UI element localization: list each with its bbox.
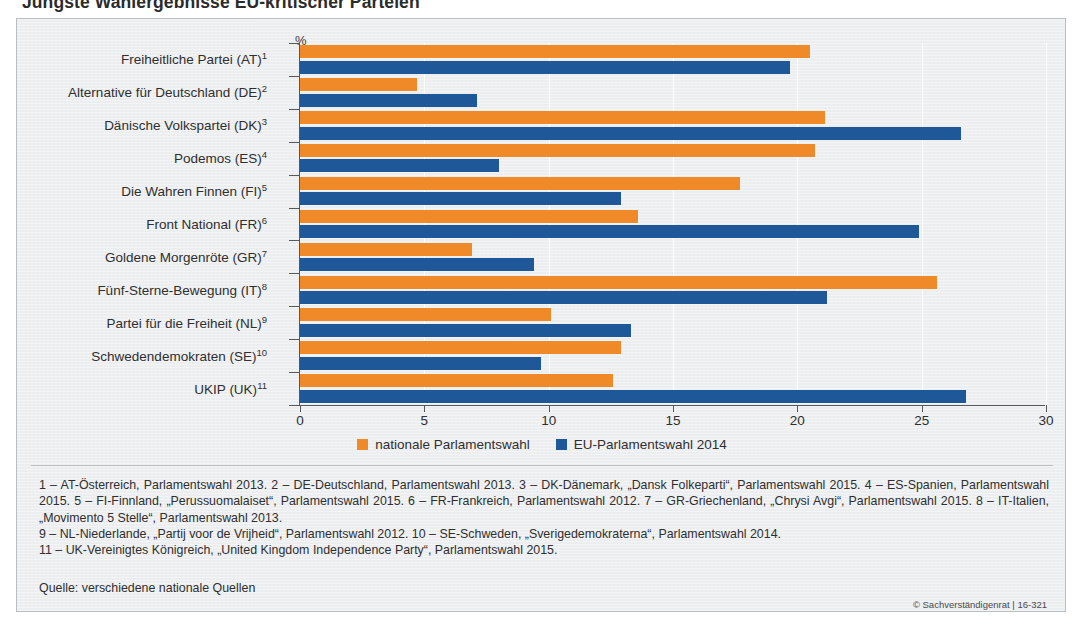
bar: [300, 94, 477, 107]
y-axis-tick: [289, 109, 300, 110]
category-label: Alternative für Deutschland (DE)2: [68, 86, 267, 100]
copyright-note: © Sachverständigenrat | 16-321: [913, 599, 1047, 610]
y-axis-tick: [289, 240, 300, 241]
x-axis-tick: [424, 405, 425, 412]
category-label: Goldene Morgenröte (GR)7: [105, 251, 267, 265]
chart-legend: nationale ParlamentswahlEU-Parlamentswah…: [17, 437, 1067, 452]
y-axis-tick: [289, 372, 300, 373]
bar-series-container: [300, 43, 1046, 405]
gridline: [1046, 43, 1047, 405]
y-axis-tick: [289, 142, 300, 143]
y-axis-tick: [289, 306, 300, 307]
bar: [300, 192, 621, 205]
footnote-marker: 4: [262, 149, 267, 160]
divider: [31, 465, 1053, 466]
x-axis-tick-label: 30: [1038, 413, 1053, 428]
x-axis-tick: [549, 405, 550, 412]
y-axis-tick: [289, 208, 300, 209]
category-label: Freiheitliche Partei (AT)1: [121, 53, 267, 67]
bar: [300, 390, 966, 403]
x-axis-tick-label: 10: [541, 413, 556, 428]
x-axis-tick: [922, 405, 923, 412]
x-axis-tick: [797, 405, 798, 412]
bar: [300, 45, 810, 58]
category-label: Dänische Volkspartei (DK)3: [104, 119, 267, 133]
category-label: Schwedendemokraten (SE)10: [91, 350, 267, 364]
chart-page: Jüngste Wahlergebnisse EU-kritischer Par…: [0, 0, 1084, 630]
footnote-line: 1 – AT-Österreich, Parlamentswahl 2013. …: [39, 477, 1049, 526]
plot-area: % Freiheitliche Partei (AT)1Alternative …: [17, 19, 1067, 451]
bar: [300, 210, 638, 223]
footnote-marker: 11: [257, 379, 267, 390]
bar: [300, 111, 825, 124]
footnote-marker: 10: [256, 346, 267, 357]
bar: [300, 159, 499, 172]
bar: [300, 61, 790, 74]
footnote-marker: 2: [262, 83, 267, 94]
legend-item[interactable]: nationale Parlamentswahl: [357, 437, 530, 452]
x-axis-tick-label: 0: [296, 413, 304, 428]
page-title: Jüngste Wahlergebnisse EU-kritischer Par…: [22, 0, 420, 13]
bar: [300, 276, 937, 289]
y-axis-tick: [289, 76, 300, 77]
category-axis-labels: Freiheitliche Partei (AT)1Alternative fü…: [17, 43, 283, 405]
footnote-marker: 1: [262, 50, 267, 61]
legend-label: nationale Parlamentswahl: [375, 437, 530, 452]
bar: [300, 324, 631, 337]
bar: [300, 177, 740, 190]
footnote-marker: 5: [262, 182, 267, 193]
x-axis-tick: [673, 405, 674, 412]
footnote-marker: 9: [262, 313, 267, 324]
bar: [300, 357, 541, 370]
x-axis-line: [299, 405, 1045, 406]
y-axis-tick: [289, 43, 300, 44]
x-axis-tick-label: 5: [421, 413, 429, 428]
category-label: Podemos (ES)4: [174, 152, 267, 166]
x-axis-tick-label: 15: [665, 413, 680, 428]
category-label: UKIP (UK)11: [194, 383, 267, 397]
y-axis-tick: [289, 273, 300, 274]
x-axis-tick-label: 20: [790, 413, 805, 428]
category-label: Front National (FR)6: [146, 218, 267, 232]
bar: [300, 78, 417, 91]
bar: [300, 308, 551, 321]
footnote-marker: 8: [262, 280, 267, 291]
legend-swatch-icon: [357, 439, 368, 450]
bar: [300, 144, 815, 157]
legend-swatch-icon: [556, 439, 567, 450]
footnote-marker: 6: [262, 215, 267, 226]
footnotes: 1 – AT-Österreich, Parlamentswahl 2013. …: [39, 477, 1049, 558]
x-axis-tick: [300, 405, 301, 412]
footnote-line: 11 – UK-Vereinigtes Königreich, „United …: [39, 542, 1049, 558]
legend-item[interactable]: EU-Parlamentswahl 2014: [556, 437, 727, 452]
bar: [300, 341, 621, 354]
legend-label: EU-Parlamentswahl 2014: [574, 437, 727, 452]
footnote-line: 9 – NL-Niederlande, „Partij voor de Vrij…: [39, 526, 1049, 542]
chart-card: % Freiheitliche Partei (AT)1Alternative …: [16, 18, 1066, 612]
x-axis-tick-label: 25: [914, 413, 929, 428]
bar: [300, 127, 961, 140]
y-axis-tick: [289, 175, 300, 176]
bar: [300, 374, 613, 387]
category-label: Fünf-Sterne-Bewegung (IT)8: [97, 284, 267, 298]
source-note: Quelle: verschiedene nationale Quellen: [39, 581, 255, 595]
bar: [300, 291, 827, 304]
footnote-marker: 7: [262, 247, 267, 258]
bar: [300, 243, 472, 256]
category-label: Partei für die Freiheit (NL)9: [106, 317, 267, 331]
bar: [300, 225, 919, 238]
x-axis-tick: [1046, 405, 1047, 412]
bar: [300, 258, 534, 271]
footnote-marker: 3: [262, 116, 267, 127]
y-axis-tick: [289, 339, 300, 340]
category-label: Die Wahren Finnen (FI)5: [121, 185, 267, 199]
